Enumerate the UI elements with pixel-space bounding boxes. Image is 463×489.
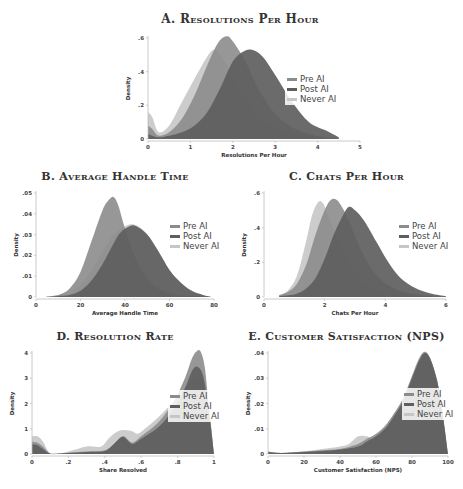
- y-tick-label: .04: [254, 350, 264, 356]
- legend-label: Post AI: [183, 231, 212, 241]
- figure-caption-cropped: [130, 482, 330, 488]
- x-tick-label: 60: [372, 459, 380, 465]
- legend: Pre AIPost AINever AI: [168, 220, 221, 252]
- legend-item-pre-ai: Pre AI: [399, 221, 448, 231]
- legend-swatch-icon: [170, 225, 180, 228]
- legend-item-never-ai: Never AI: [404, 409, 453, 419]
- legend-label: Never AI: [412, 241, 448, 251]
- x-tick-label: 100: [442, 459, 454, 465]
- y-tick-label: .2: [254, 259, 260, 265]
- legend-item-never-ai: Never AI: [399, 241, 448, 251]
- legend-swatch-icon: [399, 235, 409, 238]
- legend-swatch-icon: [399, 225, 409, 228]
- panel-average-handle-time: B. Average Handle Time 0.01.02.03.04.050…: [0, 160, 230, 320]
- legend-item-never-ai: Never AI: [170, 411, 219, 421]
- y-tick-label: .04: [22, 211, 32, 217]
- legend: Pre AIPost AINever AI: [168, 390, 221, 422]
- y-tick-label: .03: [22, 232, 32, 238]
- x-tick-label: 0: [262, 302, 266, 308]
- x-tick-label: 4: [383, 302, 387, 308]
- x-tick-label: 1: [212, 459, 216, 465]
- x-tick-label: 20: [77, 302, 85, 308]
- x-tick-label: .4: [102, 459, 108, 465]
- y-tick-label: .4: [138, 69, 144, 75]
- x-tick-label: 6: [444, 302, 448, 308]
- x-tick-label: 80: [408, 459, 416, 465]
- legend-swatch-icon: [287, 88, 297, 91]
- panel-chats-per-hour: C. Chats Per Hour 0.2.4.60246Chats Per H…: [230, 160, 463, 320]
- legend-item-pre-ai: Pre AI: [170, 391, 219, 401]
- legend-item-post-ai: Post AI: [170, 401, 219, 411]
- legend-swatch-icon: [287, 98, 297, 101]
- legend-label: Post AI: [300, 84, 329, 94]
- legend-swatch-icon: [170, 395, 180, 398]
- y-axis-label: Density: [245, 391, 252, 415]
- x-tick-label: 60: [166, 302, 174, 308]
- x-tick-label: .8: [175, 459, 181, 465]
- legend-swatch-icon: [404, 393, 414, 396]
- x-tick-label: .2: [65, 459, 71, 465]
- y-tick-label: .02: [22, 252, 32, 258]
- x-tick-label: 40: [336, 459, 344, 465]
- x-axis-label: Resolutions Per Hour: [221, 152, 287, 158]
- y-axis-label: Density: [125, 76, 132, 100]
- legend-label: Post AI: [412, 231, 441, 241]
- y-tick-label: 0: [256, 294, 260, 300]
- legend-label: Pre AI: [300, 74, 325, 84]
- x-tick-label: 0: [146, 144, 150, 150]
- y-axis-label: Density: [13, 233, 20, 257]
- panel-resolution-rate: D. Resolution Rate 012340.2.4.6.81Share …: [0, 320, 230, 480]
- x-axis-label: Average Handle Time: [92, 310, 158, 317]
- legend-item-post-ai: Post AI: [399, 231, 448, 241]
- x-tick-label: 40: [121, 302, 129, 308]
- x-tick-label: 0: [30, 459, 34, 465]
- x-tick-label: 2: [323, 302, 327, 308]
- legend-label: Post AI: [417, 399, 446, 409]
- legend-label: Pre AI: [183, 391, 208, 401]
- legend-label: Post AI: [183, 401, 212, 411]
- y-tick-label: .6: [138, 35, 144, 41]
- legend: Pre AIPost AINever AI: [285, 73, 338, 105]
- legend-label: Never AI: [183, 411, 219, 421]
- legend-label: Never AI: [183, 241, 219, 251]
- y-tick-label: 0: [260, 451, 264, 457]
- y-tick-label: 1: [24, 426, 28, 432]
- x-tick-label: 1: [188, 144, 192, 150]
- x-tick-label: 20: [300, 459, 308, 465]
- legend-item-never-ai: Never AI: [170, 241, 219, 251]
- x-tick-label: 80: [210, 302, 218, 308]
- legend-swatch-icon: [170, 235, 180, 238]
- legend-swatch-icon: [287, 78, 297, 81]
- x-tick-label: 4: [316, 144, 320, 150]
- legend-item-pre-ai: Pre AI: [170, 221, 219, 231]
- legend-item-pre-ai: Pre AI: [404, 389, 453, 399]
- legend-swatch-icon: [170, 415, 180, 418]
- legend-swatch-icon: [399, 245, 409, 248]
- y-tick-label: .02: [254, 401, 264, 407]
- y-tick-label: 4: [24, 350, 28, 356]
- x-tick-label: 0: [34, 302, 38, 308]
- x-tick-label: 2: [231, 144, 235, 150]
- legend-swatch-icon: [170, 245, 180, 248]
- legend-label: Never AI: [300, 94, 336, 104]
- x-axis-label: Chats Per Hour: [332, 310, 379, 316]
- y-tick-label: .03: [254, 375, 264, 381]
- legend-label: Never AI: [417, 409, 453, 419]
- y-tick-label: 0: [24, 451, 28, 457]
- legend-swatch-icon: [404, 403, 414, 406]
- x-axis-label: Share Resolved: [99, 467, 147, 473]
- y-tick-label: 2: [24, 401, 28, 407]
- legend-label: Pre AI: [183, 221, 208, 231]
- y-tick-label: 0: [140, 136, 144, 142]
- x-tick-label: .6: [138, 459, 144, 465]
- y-tick-label: .05: [22, 190, 32, 196]
- legend-item-never-ai: Never AI: [287, 94, 336, 104]
- panel-customer-satisfaction: E. Customer Satisfaction (NPS) 0.01.02.0…: [230, 320, 463, 480]
- y-tick-label: .01: [22, 273, 32, 279]
- panel-resolutions-per-hour: A. Resolutions Per Hour 0.2.4.6012345Res…: [120, 0, 360, 160]
- y-tick-label: .6: [254, 190, 260, 196]
- legend-item-pre-ai: Pre AI: [287, 74, 336, 84]
- legend: Pre AIPost AINever AI: [397, 220, 450, 252]
- y-tick-label: .2: [138, 102, 144, 108]
- y-axis-label: Density: [241, 233, 248, 257]
